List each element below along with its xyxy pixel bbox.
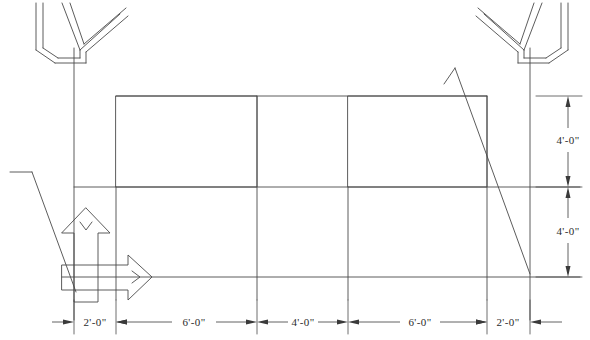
left-panel bbox=[116, 96, 257, 300]
architectural-drawing: 2'-0" 6'-0" 4'-0" 6'-0" 2'-0" 4'-0" 4'-0… bbox=[0, 0, 590, 340]
dimension-label-h2: 6'-0" bbox=[182, 316, 205, 328]
dimension-label-h4: 6'-0" bbox=[408, 316, 431, 328]
diagonal-brace-head bbox=[444, 68, 455, 84]
dimension-label-h1: 2'-0" bbox=[83, 316, 106, 328]
diagonal-brace bbox=[455, 68, 530, 274]
dimension-label-h5: 2'-0" bbox=[496, 316, 519, 328]
vertical-dimension-extension-lines bbox=[536, 96, 582, 277]
dimension-leader-lines bbox=[52, 107, 568, 322]
dimension-label-v2: 4'-0" bbox=[556, 225, 579, 237]
right-panel bbox=[348, 96, 487, 300]
right-bracket-detail bbox=[476, 3, 568, 63]
dimension-label-h3: 4'-0" bbox=[291, 316, 314, 328]
left-bracket-detail bbox=[36, 3, 128, 63]
drawing-canvas: 2'-0" 6'-0" 4'-0" 6'-0" 2'-0" 4'-0" 4'-0… bbox=[0, 0, 590, 340]
load-arrow-up-tick bbox=[80, 222, 92, 230]
dimension-arrowheads bbox=[63, 96, 571, 325]
dimension-label-v1: 4'-0" bbox=[556, 134, 579, 146]
left-wall-stub bbox=[10, 172, 76, 292]
load-arrow-right bbox=[62, 255, 152, 300]
load-arrow-up bbox=[62, 208, 110, 302]
